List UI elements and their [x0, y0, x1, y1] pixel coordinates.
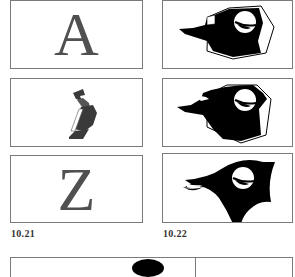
- figure-caption-10-22: 10.22: [163, 228, 187, 239]
- bird-head-polygonal-icon: [163, 1, 293, 69]
- figure-10-21-panel-a: A: [10, 0, 143, 69]
- figure-10-21-panel-z: Z: [10, 155, 143, 223]
- figure-10-22-panel-3: [162, 153, 293, 223]
- letter-a: A: [11, 3, 142, 65]
- letter-z: Z: [11, 158, 142, 220]
- bird-head-smooth-icon: [163, 154, 293, 223]
- figure-caption-10-21: 10.21: [11, 228, 35, 239]
- figure-10-21-panel-morph: [10, 78, 143, 147]
- next-figure-panel: [10, 257, 293, 277]
- bird-head-intermediate-icon: [163, 79, 293, 147]
- figure-10-22-panel-2: [162, 78, 293, 147]
- morph-glyph-icon: [11, 79, 143, 147]
- partial-shape-icon: [11, 258, 293, 277]
- figure-10-22-panel-1: [162, 0, 293, 69]
